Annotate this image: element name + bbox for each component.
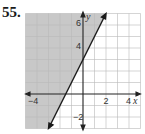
- inequality-graph: −4 2 4 x 6 4 −2 y: [0, 0, 145, 134]
- y-tick-6: 6: [76, 18, 81, 28]
- y-tick-4: 4: [76, 41, 81, 51]
- x-axis-label: x: [132, 95, 138, 106]
- x-tick-4: 4: [126, 96, 131, 106]
- y-axis-label: y: [85, 11, 91, 22]
- y-tick-neg2: −2: [73, 112, 83, 122]
- x-tick-neg4: −4: [28, 96, 38, 106]
- x-tick-2: 2: [104, 96, 109, 106]
